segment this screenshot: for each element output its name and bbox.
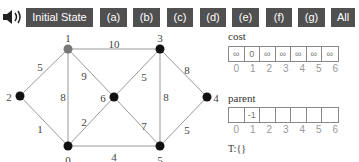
cost-cell: ∞: [291, 47, 307, 61]
parent-index: 1: [245, 124, 262, 135]
parent-label: parent: [228, 92, 255, 104]
step-button-d[interactable]: (d): [200, 8, 226, 27]
step-button-c[interactable]: (c): [167, 8, 193, 27]
parent-cell: -1: [245, 108, 261, 122]
edge-weight-label: 5: [184, 124, 190, 136]
node-label: 2: [6, 91, 12, 103]
cost-index: 6: [327, 63, 344, 74]
parent-index: 2: [261, 124, 278, 135]
parent-cell: [260, 108, 276, 122]
cost-cell: 0: [245, 47, 261, 61]
graph-node-0: [64, 142, 73, 151]
step-button-a[interactable]: (a): [100, 8, 127, 27]
step-button-f[interactable]: (f): [266, 8, 292, 27]
graph-node-1: [64, 45, 73, 54]
graph-diagram: 51892104578850123456: [0, 28, 230, 162]
node-label: 4: [213, 92, 219, 104]
parent-cell: [291, 108, 307, 122]
graph-node-6: [110, 93, 119, 102]
parent-index: 3: [278, 124, 295, 135]
parent-cell: [229, 108, 245, 122]
graph-node-5: [156, 142, 165, 151]
edge-1-2: [20, 49, 68, 96]
edge-weight-label: 8: [60, 91, 66, 103]
cost-index: 5: [311, 63, 328, 74]
edge-0-6: [68, 97, 114, 146]
cost-label: cost: [228, 30, 246, 42]
parent-array: -1: [228, 107, 339, 123]
step-button-g[interactable]: (g): [298, 8, 325, 27]
cost-array: ∞0∞∞∞∞∞: [228, 46, 339, 62]
parent-cell: [276, 108, 292, 122]
parent-index: 6: [327, 124, 344, 135]
parent-indices: 0123456: [228, 124, 344, 135]
step-button-b[interactable]: (b): [133, 8, 160, 27]
edge-weight-label: 10: [109, 38, 121, 50]
edge-weight-label: 8: [163, 91, 169, 103]
parent-index: 5: [311, 124, 328, 135]
edge-weight-label: 7: [141, 120, 147, 132]
cost-index: 2: [261, 63, 278, 74]
edge-5-4: [160, 97, 207, 146]
parent-index: 0: [228, 124, 245, 135]
graph-node-3: [156, 45, 165, 54]
node-label: 6: [100, 92, 106, 104]
cost-index: 0: [228, 63, 245, 74]
graph-node-2: [16, 92, 25, 101]
cost-cell: ∞: [276, 47, 292, 61]
edge-weight-label: 5: [141, 71, 147, 83]
cost-cell: ∞: [322, 47, 338, 61]
cost-index: 4: [294, 63, 311, 74]
edge-weight-label: 2: [81, 116, 87, 128]
parent-cell: [307, 108, 323, 122]
edge-weight-label: 9: [81, 70, 87, 82]
edge-weight-label: 1: [37, 123, 43, 135]
cost-cell: ∞: [307, 47, 323, 61]
edge-6-5: [114, 97, 160, 146]
cost-cell: ∞: [229, 47, 245, 61]
parent-index: 4: [294, 124, 311, 135]
edge-6-3: [114, 49, 160, 97]
graph-node-4: [203, 93, 212, 102]
parent-cell: [322, 108, 338, 122]
edge-weight-label: 5: [37, 61, 43, 73]
cost-indices: 0123456: [228, 63, 344, 74]
node-label: 0: [65, 154, 71, 162]
step-button-initial-state[interactable]: Initial State: [26, 8, 93, 27]
node-label: 3: [157, 32, 163, 44]
cost-cell: ∞: [260, 47, 276, 61]
node-label: 5: [157, 154, 163, 162]
edge-1-6: [68, 49, 114, 97]
step-button-all[interactable]: All: [331, 8, 355, 27]
tree-set: T:{}: [228, 143, 246, 154]
speaker-icon[interactable]: [2, 9, 24, 25]
edge-weight-label: 8: [184, 64, 190, 76]
edge-weight-label: 4: [111, 151, 117, 162]
toolbar: Initial State(a)(b)(c)(d)(e)(f)(g)All: [0, 0, 359, 30]
cost-index: 1: [245, 63, 262, 74]
edge-2-0: [20, 96, 68, 146]
cost-index: 3: [278, 63, 295, 74]
node-label: 1: [65, 32, 71, 44]
step-button-e[interactable]: (e): [232, 8, 259, 27]
